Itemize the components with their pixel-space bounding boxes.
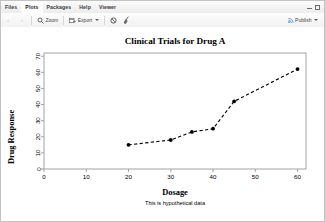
toolbar-separator-2 (63, 16, 64, 25)
plots-toolbar: ‹ › Zoom Export (1, 13, 324, 28)
y-axis-label: Drug Response (7, 110, 16, 164)
magnifier-icon (37, 17, 44, 24)
clear-plot-icon (110, 17, 117, 24)
back-button[interactable]: ‹ (1, 15, 15, 26)
publish-label: Publish (295, 15, 311, 26)
chart-title: Clinical Trials for Drug A (125, 36, 226, 46)
svg-text:60: 60 (294, 173, 301, 180)
data-line (129, 69, 298, 145)
minimize-pane-icon[interactable] (307, 5, 312, 10)
export-label: Export (78, 15, 92, 26)
zoom-label: Zoom (46, 15, 59, 26)
zoom-button[interactable]: Zoom (34, 15, 61, 26)
export-button[interactable]: Export (66, 15, 101, 26)
export-icon (69, 17, 76, 24)
svg-text:70: 70 (35, 52, 42, 59)
broom-icon (123, 16, 130, 24)
window-controls (307, 5, 324, 10)
toolbar-separator-3 (104, 16, 105, 25)
x-axis: 0102030405060 (42, 169, 301, 180)
r-base-plot: Clinical Trials for Drug A Drug Response… (1, 27, 324, 221)
tab-viewer[interactable]: Viewer (95, 1, 120, 13)
chevron-right-icon: › (18, 16, 26, 25)
toolbar-separator-1 (31, 16, 32, 25)
svg-text:20: 20 (125, 173, 132, 180)
x-axis-label: Dosage (162, 188, 188, 197)
forward-button[interactable]: › (15, 15, 29, 26)
data-points (127, 67, 300, 147)
svg-text:20: 20 (35, 133, 42, 140)
svg-text:50: 50 (252, 173, 259, 180)
tab-files[interactable]: Files (1, 1, 21, 13)
y-axis: 010203040506070 (35, 52, 45, 171)
svg-text:60: 60 (35, 68, 42, 75)
publish-button[interactable]: Publish (284, 15, 321, 26)
publish-chevron-down-icon (314, 19, 318, 21)
tab-packages[interactable]: Packages (43, 1, 76, 13)
svg-text:30: 30 (35, 117, 42, 124)
chart-subtitle: This is hypothetical data (145, 200, 206, 206)
tab-plots[interactable]: Plots (21, 1, 42, 13)
maximize-pane-icon[interactable] (315, 5, 320, 10)
svg-text:10: 10 (83, 173, 90, 180)
svg-text:50: 50 (35, 84, 42, 91)
svg-text:0: 0 (42, 173, 46, 180)
svg-text:40: 40 (210, 173, 217, 180)
plot-box (44, 53, 306, 169)
rstudio-plots-pane: Files Plots Packages Help Viewer ‹ › Zoo… (0, 0, 325, 222)
chevron-down-icon (95, 19, 99, 21)
remove-plot-button[interactable] (107, 15, 120, 26)
plot-canvas[interactable]: Clinical Trials for Drug A Drug Response… (1, 27, 324, 221)
publish-icon (287, 17, 294, 24)
svg-text:30: 30 (167, 173, 174, 180)
svg-text:0: 0 (35, 167, 42, 171)
svg-text:40: 40 (35, 101, 42, 108)
svg-text:10: 10 (35, 149, 42, 156)
tab-help[interactable]: Help (75, 1, 95, 13)
chevron-left-icon: ‹ (4, 16, 12, 25)
toolbar-right-group: Publish (284, 15, 324, 26)
clear-all-plots-button[interactable] (120, 15, 133, 26)
